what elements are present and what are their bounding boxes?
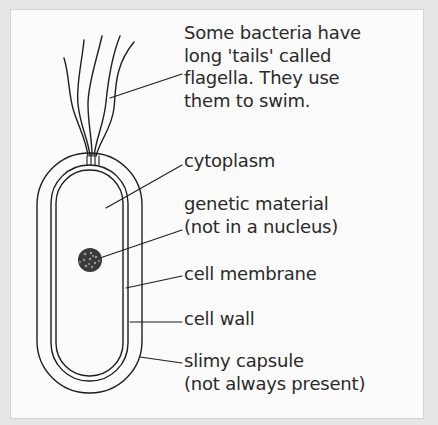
label-slimy-capsule: slimy capsule (not always present) [184, 350, 365, 395]
label-flagella: Some bacteria have long 'tails' called f… [184, 22, 361, 112]
cell-wall [51, 165, 128, 381]
cell-membrane [56, 170, 123, 376]
flagella [64, 36, 134, 156]
label-cytoplasm: cytoplasm [184, 150, 275, 173]
slimy-capsule [37, 153, 142, 393]
label-genetic-material: genetic material (not in a nucleus) [184, 193, 338, 238]
genetic-material [78, 248, 102, 272]
label-cell-membrane: cell membrane [184, 263, 317, 286]
label-cell-wall: cell wall [184, 308, 255, 331]
